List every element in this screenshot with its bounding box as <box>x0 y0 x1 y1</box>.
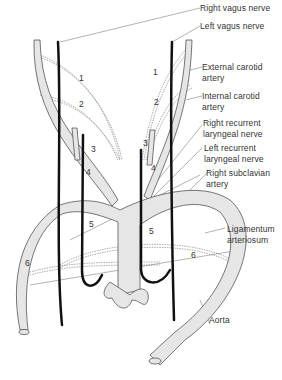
arch-number: 1 <box>153 68 158 77</box>
label-ligamentum: Ligamentum <box>227 224 275 234</box>
label-aorta: Aorta <box>209 315 230 325</box>
label-external-carotid-2: artery <box>202 73 224 83</box>
arch-number: 3 <box>91 145 96 154</box>
arch-number: 1 <box>79 74 84 83</box>
arch-number: 2 <box>154 98 159 107</box>
label-left-recurrent: Left recurrent <box>204 143 256 153</box>
arch-number: 6 <box>191 251 196 260</box>
label-left-recurrent-2: laryngeal nerve <box>204 154 264 164</box>
right-vagus-nerve <box>171 42 174 320</box>
label-right-recurrent-2: laryngeal nerve <box>203 129 263 139</box>
arch-number: 6 <box>25 259 30 268</box>
arch-number: 5 <box>149 227 154 236</box>
label-ligamentum-2: arteriosum <box>227 235 268 245</box>
arch-number: 4 <box>86 168 91 177</box>
label-right-recurrent: Right recurrent <box>203 118 261 128</box>
arch-number: 2 <box>79 100 84 109</box>
arch-number: 3 <box>143 139 148 148</box>
label-internal-carotid: Internal carotid <box>202 91 260 101</box>
arch-number: 5 <box>89 220 94 229</box>
aortic-arch-diagram <box>0 0 282 380</box>
label-external-carotid: External carotid <box>202 62 263 72</box>
left-vagus-nerve <box>58 42 62 325</box>
label-right-vagus: Right vagus nerve <box>200 3 270 13</box>
label-internal-carotid-2: artery <box>202 102 224 112</box>
label-left-vagus: Left vagus nerve <box>200 21 264 31</box>
label-right-subclavian: Right subclavian <box>206 168 270 178</box>
arch-number: 4 <box>151 164 156 173</box>
label-right-subclavian-2: artery <box>206 179 228 189</box>
